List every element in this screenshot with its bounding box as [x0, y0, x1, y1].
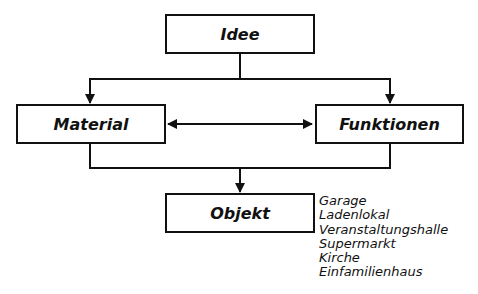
node-idee: Idee: [165, 14, 315, 54]
node-objekt: Objekt: [165, 193, 315, 233]
list-item: Kirche: [319, 251, 448, 265]
node-funktionen: Funktionen: [315, 104, 464, 144]
node-funktionen-label: Funktionen: [339, 115, 440, 134]
list-item: Supermarkt: [319, 237, 448, 251]
list-item: Einfamilienhaus: [319, 265, 448, 279]
list-item: Garage: [319, 194, 448, 208]
node-material-label: Material: [54, 115, 129, 134]
list-item: Ladenlokal: [319, 208, 448, 222]
node-idee-label: Idee: [220, 25, 259, 44]
node-material: Material: [16, 104, 166, 144]
list-item: Veranstaltungshalle: [319, 223, 448, 237]
objekt-examples-list: Garage Ladenlokal Veranstaltungshalle Su…: [319, 194, 448, 280]
node-objekt-label: Objekt: [210, 204, 270, 223]
